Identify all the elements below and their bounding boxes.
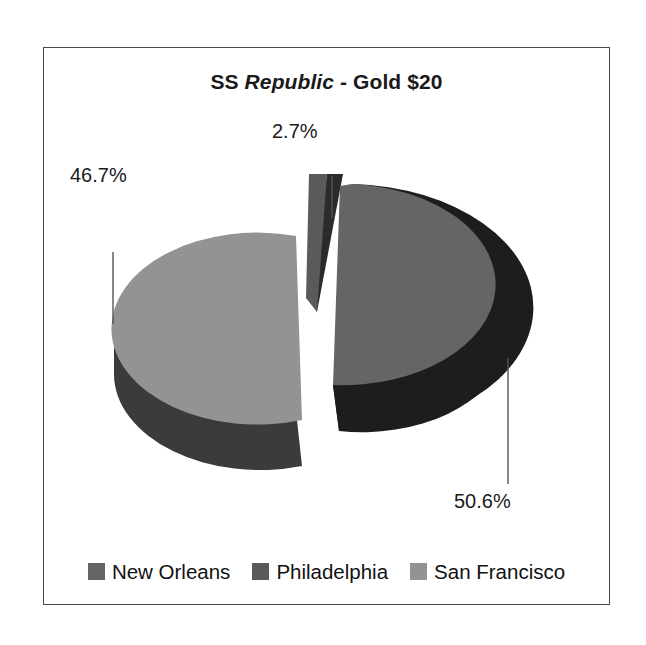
- legend-swatch-new-orleans: [88, 563, 105, 580]
- chart-legend: New Orleans Philadelphia San Francisco: [44, 562, 609, 583]
- chart-title-suffix: - Gold $20: [334, 70, 442, 93]
- data-label-philadelphia: 2.7%: [272, 120, 318, 143]
- chart-title: SS Republic - Gold $20: [44, 70, 609, 94]
- data-label-san-francisco: 46.7%: [70, 164, 127, 187]
- legend-item-new-orleans[interactable]: New Orleans: [88, 562, 231, 583]
- data-label-new-orleans: 50.6%: [454, 490, 511, 513]
- chart-title-prefix: SS: [210, 70, 244, 93]
- legend-item-philadelphia[interactable]: Philadelphia: [252, 562, 388, 583]
- pie-chart-svg: [44, 106, 611, 546]
- legend-label-philadelphia: Philadelphia: [276, 562, 388, 583]
- legend-label-san-francisco: San Francisco: [434, 562, 565, 583]
- legend-item-san-francisco[interactable]: San Francisco: [410, 562, 565, 583]
- chart-frame: SS Republic - Gold $20: [43, 47, 610, 605]
- legend-label-new-orleans: New Orleans: [112, 562, 231, 583]
- pie-slice-new-orleans[interactable]: [333, 184, 533, 432]
- pie-slice-san-francisco[interactable]: [111, 233, 302, 470]
- pie-chart-stage: [44, 106, 611, 546]
- legend-swatch-philadelphia: [252, 563, 269, 580]
- chart-title-italic: Republic: [245, 70, 334, 93]
- legend-swatch-san-francisco: [410, 563, 427, 580]
